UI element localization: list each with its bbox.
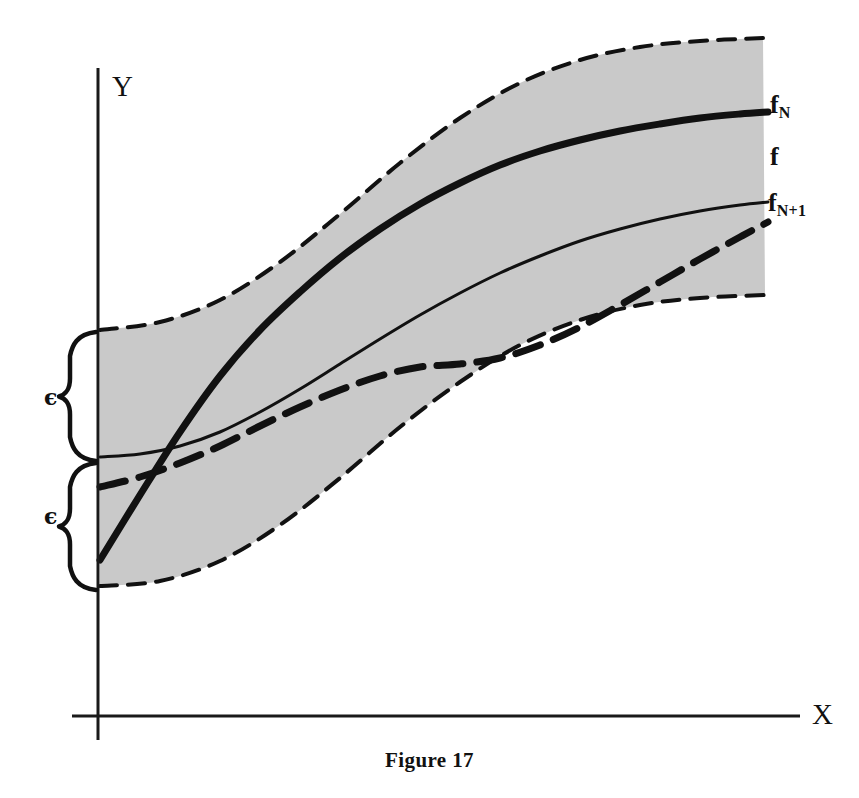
y-axis-label: Y (112, 72, 133, 101)
figure-container: Y X fN f fN+1 ϵ ϵ Figure 17 (0, 0, 859, 798)
label-f-n-subscript: N (779, 104, 791, 121)
label-f-base: f (770, 142, 779, 171)
label-f-n-plus-1-base: f (768, 188, 777, 217)
brace-lower (59, 463, 96, 590)
label-f-n-base: f (770, 90, 779, 119)
curve-label-f-n: fN (770, 92, 791, 118)
epsilon-label-upper: ϵ (44, 386, 57, 408)
brace-upper (59, 332, 96, 461)
x-axis-label: X (812, 700, 833, 729)
epsilon-label-lower: ϵ (44, 505, 57, 527)
figure-caption: Figure 17 (0, 748, 859, 773)
curve-label-f-n-plus-1: fN+1 (768, 190, 806, 216)
figure-plot (0, 0, 859, 798)
label-f-n-plus-1-subscript: N+1 (777, 202, 807, 219)
curve-label-f: f (770, 144, 779, 170)
